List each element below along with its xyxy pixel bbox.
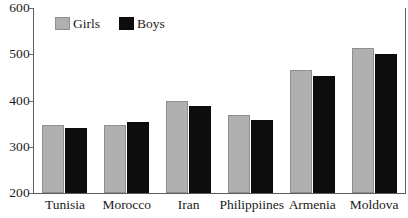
y-tick-label: 300 — [0, 140, 30, 154]
legend-entry-girls[interactable]: Girls — [55, 17, 100, 31]
x-tick-label-armenia: Armenia — [281, 196, 343, 214]
bar-girls-moldova[interactable] — [352, 48, 374, 193]
legend-label-girls: Girls — [73, 17, 100, 31]
x-tick-label-tunisia: Tunisia — [34, 196, 96, 214]
x-tick-label-iran: Iran — [158, 196, 220, 214]
legend-label-boys: Boys — [137, 17, 165, 31]
x-axis-line — [33, 193, 406, 194]
x-tick-label-moldova: Moldova — [343, 196, 405, 214]
y-axis-labels: 200300400500600 — [0, 0, 30, 218]
bar-group — [34, 8, 405, 193]
y-tick-label: 200 — [0, 186, 30, 200]
legend-swatch-boys-icon — [119, 17, 134, 30]
x-tick-label-morocco: Morocco — [96, 196, 158, 214]
bar-chart: 200300400500600 TunisiaMoroccoIranPhilip… — [0, 0, 408, 218]
y-tick-label: 400 — [0, 94, 30, 108]
y-tick-label: 600 — [0, 1, 30, 15]
legend-swatch-girls-icon — [55, 17, 70, 30]
x-tick-label-philippiines: Philippiines — [220, 196, 282, 214]
chart-legend: Girls Boys — [55, 17, 165, 31]
right-axis-line — [405, 8, 406, 194]
legend-entry-boys[interactable]: Boys — [119, 17, 165, 31]
plot-area — [34, 8, 405, 193]
x-axis-labels: TunisiaMoroccoIranPhilippiinesArmeniaMol… — [34, 196, 405, 218]
bar-boys-moldova[interactable] — [375, 54, 397, 193]
y-tick-label: 500 — [0, 47, 30, 61]
